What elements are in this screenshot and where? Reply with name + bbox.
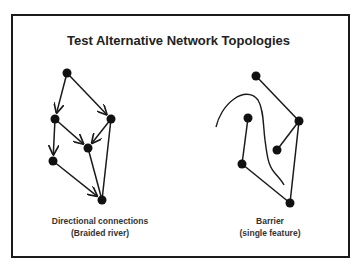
- node-A: [63, 69, 72, 78]
- node-B: [51, 115, 60, 124]
- node-F: [98, 196, 107, 205]
- node-H: [295, 117, 304, 126]
- edge-A-C: [67, 73, 107, 115]
- node-L: [286, 199, 295, 208]
- edge-E-F: [53, 161, 98, 197]
- node-J: [273, 146, 282, 155]
- caption-barrier: Barrier (single feature): [220, 215, 320, 239]
- caption-directional-title: Directional connections: [40, 215, 160, 227]
- caption-barrier-title: Barrier: [220, 215, 320, 227]
- edge-B-E: [53, 119, 55, 156]
- node-D: [84, 144, 93, 153]
- node-I: [244, 114, 253, 123]
- caption-barrier-subtitle: (single feature): [220, 227, 320, 239]
- node-E: [49, 157, 58, 166]
- node-G: [252, 72, 261, 81]
- edge-A-B: [56, 73, 67, 114]
- edge-I-K: [242, 118, 248, 164]
- caption-directional-subtitle: (Braided river): [40, 227, 160, 239]
- caption-directional: Directional connections (Braided river): [40, 215, 160, 239]
- edge-C-F: [102, 119, 111, 200]
- edges-layer: [53, 73, 299, 203]
- node-K: [238, 160, 247, 169]
- edge-D-F: [88, 148, 102, 200]
- edge-B-D: [55, 119, 84, 144]
- node-C: [107, 115, 116, 124]
- edge-H-L: [290, 121, 299, 203]
